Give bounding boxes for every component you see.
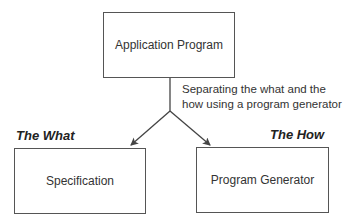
the-how-heading: The How [270,127,324,142]
arrow-to-program-generator [170,111,210,145]
application-program-label: Application Program [115,38,223,52]
program-generator-box: Program Generator [196,147,329,213]
arrow-to-specification [131,111,170,145]
caption-line-2: how using a program generator [182,97,342,112]
program-generator-label: Program Generator [211,173,314,187]
specification-box: Specification [14,148,146,214]
separation-caption: Separating the what and the how using a … [182,82,342,112]
the-what-heading: The What [16,128,75,143]
specification-label: Specification [46,174,114,188]
application-program-box: Application Program [103,12,235,78]
caption-line-1: Separating the what and the [182,82,342,97]
